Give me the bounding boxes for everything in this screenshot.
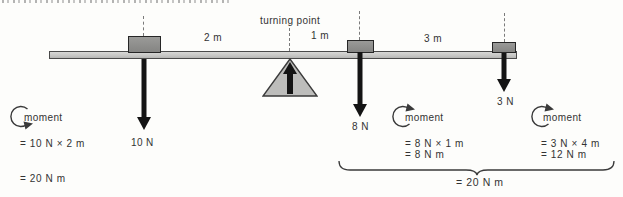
weight-block-10n (128, 36, 161, 53)
moment-calc-left: = 10 N × 2 m (20, 138, 85, 149)
down-arrow-8n-icon (351, 52, 369, 118)
moment-title-right: moment (543, 113, 582, 123)
moment-title-left: moment (24, 113, 63, 123)
distance-label-1m: 1 m (311, 31, 329, 41)
moment-result-left: = 20 N m (20, 173, 66, 184)
cropped-text-fragment (2, 0, 232, 3)
down-arrow-10n-icon (135, 59, 153, 131)
dashed-guide-line-turning-point (289, 28, 290, 51)
dashed-guide-line-left-block (143, 16, 144, 36)
force-label-10n: 10 N (131, 138, 154, 148)
dashed-guide-line-middle-block (359, 11, 360, 40)
up-arrow-icon (282, 62, 298, 95)
turning-point-label: turning point (260, 16, 320, 26)
weight-block-3n (492, 42, 516, 53)
distance-label-3m: 3 m (424, 34, 442, 44)
moments-diagram: turning point 2 m 1 m 3 m 10 N 8 N 3 N m… (0, 0, 623, 197)
brace (338, 158, 615, 176)
moment-calc-right: = 3 N × 4 m (541, 138, 600, 149)
force-label-3n: 3 N (497, 97, 514, 107)
distance-label-2m: 2 m (204, 33, 222, 43)
dashed-guide-line-right-block (504, 13, 505, 42)
down-arrow-3n-icon (495, 53, 513, 93)
moment-title-middle: moment (405, 113, 444, 123)
force-label-8n: 8 N (352, 122, 369, 132)
brace-total-label: = 20 N m (456, 177, 504, 188)
moment-calc-middle: = 8 N × 1 m (405, 138, 464, 149)
